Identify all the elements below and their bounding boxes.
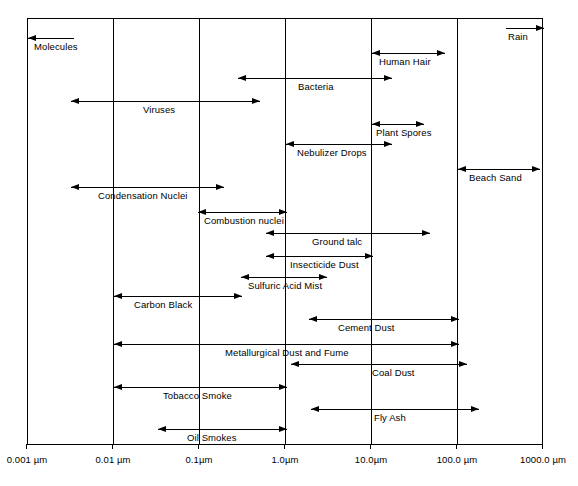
range-band-label: Coal Dust [372,367,415,379]
arrow-left-icon [241,274,249,280]
arrow-left-icon [309,316,317,322]
arrow-right-icon [319,274,327,280]
arrow-right-icon [451,316,459,322]
arrow-right-icon [532,166,540,172]
range-band-label: Ground talc [312,236,362,248]
range-line [291,364,467,365]
range-band-label: Sulfuric Acid Mist [248,280,322,292]
range-line [309,319,459,320]
range-band-label: Nebulizer Drops [297,147,367,159]
tick-mark [370,444,371,449]
arrow-left-icon [291,361,299,367]
arrow-right-icon [416,121,424,127]
arrow-right-icon [234,293,242,299]
range-band-label: Rain [508,31,528,43]
range-band-label: Insecticide Dust [290,259,359,271]
range-line [114,344,459,345]
range-band-label: Bacteria [298,81,334,93]
range-line [71,101,260,102]
range-band-label: Cement Dust [338,322,395,334]
range-line [158,429,287,430]
arrow-right-icon [384,75,392,81]
arrow-right-icon [279,384,287,390]
range-line [458,169,540,170]
arrow-left-icon [71,184,79,190]
range-band: Cement Dust [28,319,544,339]
tick-mark [112,444,113,449]
arrow-right-icon [279,426,287,432]
range-band: Human Hair [28,53,544,73]
arrow-left-icon [311,406,319,412]
range-line [266,233,430,234]
range-band: Bacteria [28,78,544,98]
range-line [114,296,242,297]
range-band: Nebulizer Drops [28,144,544,164]
range-band-label: Oil Smokes [187,432,237,444]
arrow-left-icon [114,384,122,390]
tick-mark [542,444,543,449]
arrow-left-icon [458,166,466,172]
arrow-right-icon [279,209,287,215]
tick-mark [456,444,457,449]
range-band-label: Beach Sand [469,172,522,184]
tick-mark [26,444,27,449]
range-band: Combustion nuclei [28,212,544,232]
arrow-left-icon [114,341,122,347]
arrow-right-icon [365,253,373,259]
range-band: Condensation Nuclei [28,187,544,207]
arrow-right-icon [437,50,445,56]
arrow-right-icon [384,141,392,147]
range-line [198,212,287,213]
arrow-right-icon [471,406,479,412]
range-line [71,187,224,188]
arrow-left-icon [238,75,246,81]
plot-area: MoleculesRainHuman HairBacteriaVirusesPl… [27,18,543,445]
arrow-left-icon [71,98,79,104]
arrow-right-icon [459,361,467,367]
range-line [286,144,392,145]
range-band: Beach Sand [28,169,544,189]
range-line [238,78,392,79]
arrow-right-icon [216,184,224,190]
range-band: Viruses [28,101,544,121]
range-line [114,387,287,388]
arrow-left-icon [198,209,206,215]
range-band: Insecticide Dust [28,256,544,276]
arrow-left-icon [372,121,380,127]
axis-tick-label: 1000.0 µm [483,454,578,465]
tick-mark [284,444,285,449]
range-band-label: Tobacco Smoke [163,390,232,402]
range-line [311,409,479,410]
range-band: Ground talc [28,233,544,253]
range-line [266,256,373,257]
tick-mark [198,444,199,449]
range-band-label: Fly Ash [374,412,406,424]
arrow-right-icon [451,341,459,347]
arrow-left-icon [158,426,166,432]
range-band: Coal Dust [28,364,544,384]
range-band: Carbon Black [28,296,544,316]
range-line [372,53,445,54]
arrow-left-icon [286,141,294,147]
arrow-left-icon [266,230,274,236]
arrow-left-icon [372,50,380,56]
arrow-right-icon [536,25,544,31]
arrow-right-icon [252,98,260,104]
range-band-label: Viruses [143,104,175,116]
range-band: Tobacco Smoke [28,387,544,407]
range-band: Rain [28,28,544,48]
arrow-left-icon [266,253,274,259]
range-band-label: Human Hair [379,56,431,68]
range-band-label: Combustion nuclei [204,215,284,227]
range-band: Oil Smokes [28,429,544,449]
range-band-label: Plant Spores [376,127,432,139]
particle-size-chart: MoleculesRainHuman HairBacteriaVirusesPl… [0,0,578,486]
range-band-label: Condensation Nuclei [98,190,188,202]
arrow-right-icon [422,230,430,236]
range-line [241,277,327,278]
range-band: Sulfuric Acid Mist [28,277,544,297]
range-band-label: Metallurgical Dust and Fume [225,347,349,359]
range-band-label: Carbon Black [134,299,192,311]
arrow-left-icon [114,293,122,299]
